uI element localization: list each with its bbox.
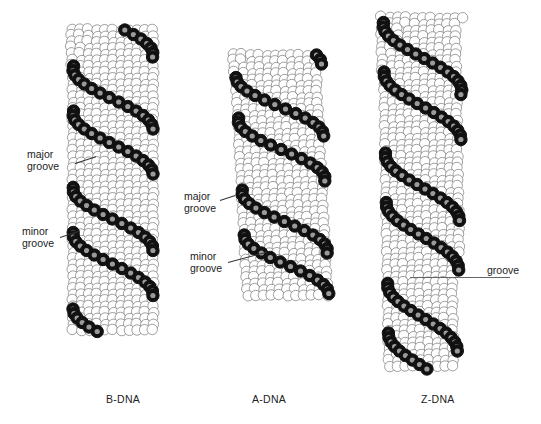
label-line: groove — [190, 262, 222, 274]
z-dna-panel: groove Z-DNA — [360, 0, 541, 424]
a-dna-minor-groove-label: minor groove — [190, 250, 222, 274]
label-line: minor — [22, 225, 54, 237]
a-dna-major-groove-label: major groove — [184, 190, 216, 214]
label-line: minor — [190, 250, 222, 262]
a-dna-caption: A-DNA — [252, 393, 286, 405]
b-dna-panel: major groove minor groove B-DNA — [0, 0, 190, 424]
z-dna-groove-label: groove — [487, 264, 519, 276]
label-line: groove — [22, 237, 54, 249]
label-line: major — [27, 148, 59, 160]
z-dna-groove-pointer — [410, 277, 510, 278]
label-line: groove — [184, 202, 216, 214]
b-dna-helix-model — [0, 0, 190, 380]
label-line: groove — [487, 264, 519, 276]
b-dna-major-groove-label: major groove — [27, 148, 59, 172]
label-line: major — [184, 190, 216, 202]
z-dna-caption: Z-DNA — [421, 393, 455, 405]
b-dna-minor-groove-label: minor groove — [22, 225, 54, 249]
label-line: groove — [27, 160, 59, 172]
a-dna-panel: major groove minor groove A-DNA — [180, 0, 360, 424]
z-dna-helix-model — [360, 0, 541, 380]
b-dna-caption: B-DNA — [106, 393, 140, 405]
